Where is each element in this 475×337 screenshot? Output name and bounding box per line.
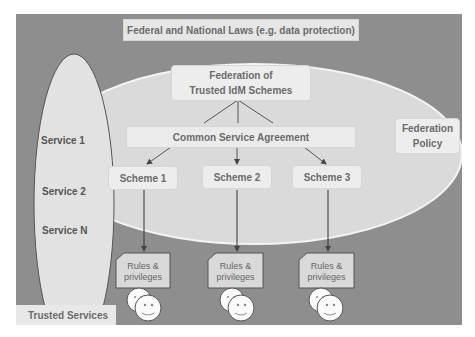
laws-banner: Federal and National Laws (e.g. data pro… [123, 19, 359, 41]
rules-privileges-1: Rules & privileges [116, 255, 170, 288]
federation-title-line2: Trusted IdM Schemes [190, 83, 293, 98]
common-service-agreement: Common Service Agreement [126, 126, 356, 148]
federation-policy-box: Federation Policy [395, 118, 460, 154]
federation-title-line1: Federation of [209, 68, 272, 83]
rules-line2: privileges [216, 272, 254, 283]
service-1-label: Service 1 [41, 135, 85, 146]
federation-box: Federation of Trusted IdM Schemes [171, 65, 311, 101]
rules-line2: privileges [124, 272, 162, 283]
diagram-canvas: Federal and National Laws (e.g. data pro… [16, 14, 462, 325]
rules-line2: privileges [307, 272, 345, 283]
scheme-3-box: Scheme 3 [292, 165, 362, 189]
scheme-label: Scheme 3 [304, 170, 351, 185]
scheme-label: Scheme 2 [214, 170, 261, 185]
scheme-label: Scheme 1 [120, 171, 167, 186]
trusted-services-label-box: Trusted Services [16, 305, 116, 325]
rules-line1: Rules & [127, 261, 159, 272]
scheme-2-box: Scheme 2 [202, 165, 272, 189]
service-2-label: Service 2 [42, 186, 86, 197]
policy-line1: Federation [402, 121, 453, 136]
rules-line1: Rules & [311, 261, 343, 272]
rules-privileges-2: Rules & privileges [208, 255, 263, 288]
scheme-1-box: Scheme 1 [108, 166, 178, 190]
rules-privileges-3: Rules & privileges [299, 255, 354, 288]
smiley-face-icon [127, 288, 343, 321]
rules-line1: Rules & [220, 261, 252, 272]
policy-line2: Policy [413, 136, 442, 151]
trusted-services-label: Trusted Services [28, 308, 108, 323]
laws-label: Federal and National Laws (e.g. data pro… [127, 23, 355, 38]
agreement-label: Common Service Agreement [173, 130, 309, 145]
service-n-label: Service N [42, 225, 88, 236]
